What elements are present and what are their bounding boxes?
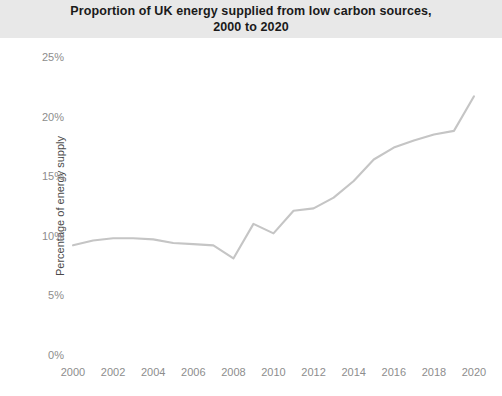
plot-area [0,0,502,396]
plot-svg [0,0,502,396]
line-chart-figure: Proportion of UK energy supplied from lo… [0,0,502,396]
data-series-line [73,96,474,258]
